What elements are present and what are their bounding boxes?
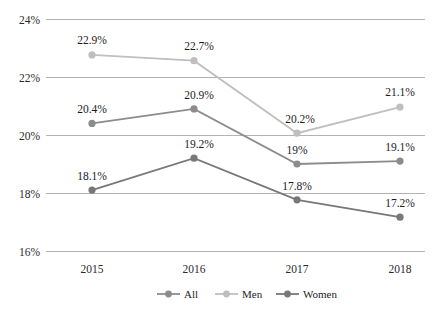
- legend-label-men: Men: [242, 288, 263, 300]
- y-axis-ticks: 24% 22% 20% 18% 16%: [19, 14, 41, 258]
- y-tick-22: 22%: [19, 72, 41, 84]
- legend-label-all: All: [184, 288, 198, 300]
- series-all-label-2015: 20.4%: [77, 103, 107, 115]
- series-men-point-2017: [293, 130, 300, 137]
- series-men-line: [92, 55, 400, 133]
- legend-item-men[interactable]: Men: [215, 288, 263, 300]
- y-tick-24: 24%: [19, 14, 41, 26]
- line-chart: 24% 22% 20% 18% 16% 2015 2016 2017 2018 …: [0, 0, 442, 316]
- legend-marker-men: [223, 291, 230, 298]
- legend-marker-women: [284, 291, 291, 298]
- x-tick-2017: 2017: [286, 263, 309, 275]
- legend: All Men Women: [157, 288, 337, 300]
- series-women: 18.1% 19.2% 17.8% 17.2%: [77, 138, 415, 221]
- series-all-line: [92, 109, 400, 164]
- series-all-point-2017: [293, 160, 300, 167]
- gridlines: [46, 20, 425, 252]
- series-women-point-2018: [396, 214, 403, 221]
- series-men-point-2018: [396, 104, 403, 111]
- y-tick-20: 20%: [19, 130, 41, 142]
- series-men: 22.9% 22.7% 20.2% 21.1%: [77, 34, 415, 137]
- series-women-line: [92, 158, 400, 217]
- series-men-point-2015: [88, 51, 95, 58]
- series-all-point-2018: [396, 158, 403, 165]
- legend-marker-all: [165, 291, 172, 298]
- x-tick-2015: 2015: [81, 263, 104, 275]
- legend-item-all[interactable]: All: [157, 288, 198, 300]
- series-all-label-2018: 19.1%: [385, 141, 415, 153]
- x-tick-2018: 2018: [389, 263, 412, 275]
- legend-item-women[interactable]: Women: [276, 288, 337, 300]
- y-tick-16: 16%: [19, 246, 41, 258]
- series-women-label-2015: 18.1%: [77, 170, 107, 182]
- x-axis-ticks: 2015 2016 2017 2018: [81, 263, 412, 275]
- series-all-point-2015: [88, 120, 95, 127]
- series-women-label-2017: 17.8%: [282, 180, 312, 192]
- y-tick-18: 18%: [19, 188, 41, 200]
- series-women-point-2017: [293, 196, 300, 203]
- series-all-label-2016: 20.9%: [184, 89, 214, 101]
- series-women-point-2015: [88, 187, 95, 194]
- series-men-label-2018: 21.1%: [385, 86, 415, 98]
- series-men-label-2017: 20.2%: [285, 113, 315, 125]
- legend-label-women: Women: [303, 288, 337, 300]
- series-all-label-2017: 19%: [286, 144, 308, 156]
- series-men-label-2015: 22.9%: [77, 34, 107, 46]
- series-women-label-2018: 17.2%: [385, 197, 415, 209]
- series-women-label-2016: 19.2%: [184, 138, 214, 150]
- series-all-point-2016: [190, 105, 197, 112]
- series-men-label-2016: 22.7%: [184, 40, 214, 52]
- series-all: 20.4% 20.9% 19% 19.1%: [77, 89, 415, 168]
- x-tick-2016: 2016: [183, 263, 206, 275]
- series-men-point-2016: [190, 57, 197, 64]
- series-women-point-2016: [190, 155, 197, 162]
